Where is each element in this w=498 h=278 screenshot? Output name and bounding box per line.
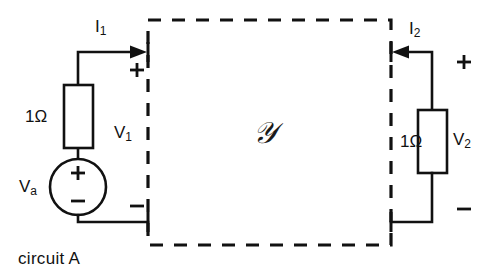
source-label-va: Va bbox=[19, 178, 37, 195]
resistor-left-body bbox=[64, 85, 93, 148]
voltage-label-v1-subscript: 1 bbox=[125, 130, 132, 144]
voltage-label-v1: V1 bbox=[114, 124, 132, 141]
current-label-i1: I1 bbox=[95, 18, 106, 35]
left-port-plus bbox=[130, 63, 144, 77]
voltage-label-v2-text: V bbox=[453, 130, 464, 149]
network-admittance-symbol: 𝒴 bbox=[253, 118, 277, 148]
current-label-i2-subscript: 2 bbox=[414, 26, 421, 40]
voltage-label-v1-text: V bbox=[114, 123, 125, 142]
current-arrow-i1 bbox=[130, 46, 147, 59]
right-top-wire bbox=[400, 52, 432, 110]
voltage-label-v2: V2 bbox=[453, 131, 471, 148]
circuit-diagram-canvas: I1 1Ω V1 Va 𝒴 I2 1Ω V2 circuit A bbox=[0, 0, 498, 278]
diagram-caption: circuit A bbox=[18, 250, 80, 267]
resistor-right-label: 1Ω bbox=[400, 133, 422, 150]
current-label-i1-subscript: 1 bbox=[100, 24, 107, 38]
current-arrow-i2 bbox=[392, 46, 409, 59]
resistor-right-body bbox=[418, 110, 447, 173]
source-label-va-text: V bbox=[19, 177, 30, 196]
right-port-plus bbox=[457, 55, 471, 69]
circuit-schematic-svg bbox=[0, 0, 498, 278]
right-bottom-wire bbox=[391, 173, 432, 222]
voltage-label-v2-subscript: 2 bbox=[464, 137, 471, 151]
left-bottom-wire bbox=[78, 215, 148, 222]
current-label-i2: I2 bbox=[409, 20, 420, 37]
source-label-va-subscript: a bbox=[30, 184, 37, 198]
resistor-left-label: 1Ω bbox=[25, 108, 47, 125]
